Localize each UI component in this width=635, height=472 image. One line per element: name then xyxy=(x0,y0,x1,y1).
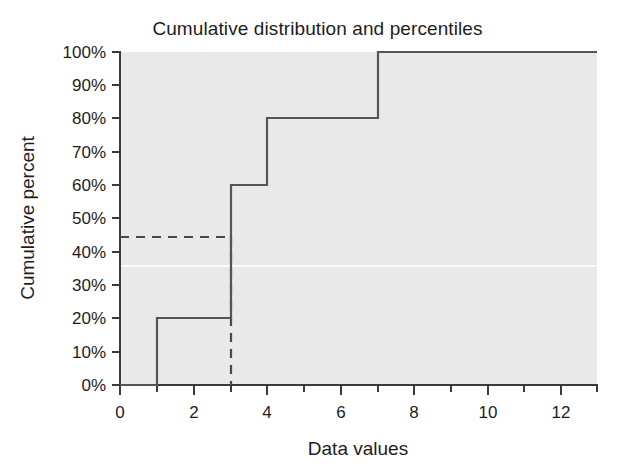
x-tick-label: 8 xyxy=(409,403,418,422)
y-tick-label: 70% xyxy=(72,143,106,162)
y-tick-label: 0% xyxy=(81,376,106,395)
x-tick-label: 4 xyxy=(262,403,271,422)
y-axis-title: Cumulative percent xyxy=(17,135,38,299)
x-axis-ticks xyxy=(120,385,597,395)
y-tick-label: 90% xyxy=(72,76,106,95)
x-axis-tick-labels: 0 2 4 6 8 10 12 xyxy=(115,403,570,422)
y-tick-label: 40% xyxy=(72,243,106,262)
x-tick-label: 12 xyxy=(552,403,571,422)
plot-canvas: 100% 90% 80% 70% 60% 50% 40% 30% 20% 10%… xyxy=(0,0,635,472)
y-tick-label: 100% xyxy=(63,43,106,62)
y-tick-label: 60% xyxy=(72,176,106,195)
x-tick-label: 2 xyxy=(189,403,198,422)
y-tick-label: 20% xyxy=(72,309,106,328)
y-tick-label: 10% xyxy=(72,343,106,362)
x-tick-label: 10 xyxy=(479,403,498,422)
x-axis-title: Data values xyxy=(308,438,408,459)
y-axis-ticks xyxy=(112,52,120,385)
y-tick-label: 50% xyxy=(72,209,106,228)
y-tick-label: 80% xyxy=(72,109,106,128)
chart-figure: Cumulative distribution and percentiles … xyxy=(0,0,635,472)
x-tick-label: 0 xyxy=(115,403,124,422)
x-tick-label: 6 xyxy=(336,403,345,422)
y-tick-label: 30% xyxy=(72,276,106,295)
plot-area-background xyxy=(120,52,597,385)
y-axis-tick-labels: 100% 90% 80% 70% 60% 50% 40% 30% 20% 10%… xyxy=(63,43,106,395)
